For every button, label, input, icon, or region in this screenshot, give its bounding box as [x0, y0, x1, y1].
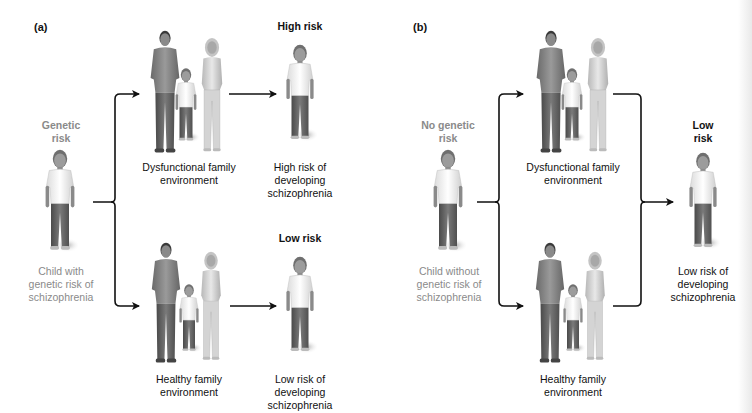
caption-line: developing	[262, 174, 338, 187]
genetic-risk-heading: Genetic risk	[30, 119, 92, 145]
arrow-b-to-dysfunctional	[477, 94, 523, 202]
dysfunctional-family-figure-b	[534, 30, 614, 156]
arrow-a-to-healthy	[111, 202, 139, 306]
caption-line: Low risk of	[663, 265, 743, 278]
mother-figure	[580, 250, 610, 366]
caption-line: Child with	[20, 265, 102, 278]
dysfunctional-environment-label-b: Dysfunctional family environment	[518, 161, 628, 187]
label-line: Dysfunctional family	[518, 161, 628, 174]
mother-figure	[582, 38, 614, 156]
mother-figure	[196, 250, 226, 366]
flow-arrows	[0, 0, 752, 413]
caption-line: genetic risk of	[404, 278, 494, 291]
child-without-genetic-risk-caption: Child without genetic risk of schizophre…	[404, 265, 494, 304]
label-line: environment	[134, 386, 244, 399]
healthy-family-figure-a	[150, 242, 230, 368]
low-risk-caption-a: Low risk of developing schizophrenia	[262, 373, 338, 412]
low-risk-caption-b: Low risk of developing schizophrenia	[663, 265, 743, 304]
child-figure-low-risk-a	[283, 247, 317, 365]
child-figure-high-risk	[283, 35, 317, 153]
heading-line: Low	[678, 119, 728, 132]
caption-line: developing	[663, 278, 743, 291]
caption-line: schizophrenia	[262, 399, 338, 412]
dysfunctional-environment-label-a: Dysfunctional family environment	[134, 161, 244, 187]
label-line: Healthy family	[134, 373, 244, 386]
label-line: Dysfunctional family	[134, 161, 244, 174]
child-figure-no-genetic-risk	[430, 143, 466, 261]
caption-line: schizophrenia	[262, 187, 338, 200]
caption-line: schizophrenia	[404, 291, 494, 304]
heading-line: Genetic	[30, 119, 92, 132]
healthy-family-figure-b	[534, 242, 614, 368]
healthy-environment-label-a: Healthy family environment	[134, 373, 244, 399]
caption-line: Low risk of	[262, 373, 338, 386]
dysfunctional-family-figure-a	[148, 30, 228, 156]
child-figure-genetic-risk	[42, 143, 78, 261]
no-genetic-risk-heading: No genetic risk	[408, 119, 488, 145]
healthy-environment-label-b: Healthy family environment	[518, 373, 628, 399]
caption-line: schizophrenia	[20, 291, 102, 304]
label-line: Healthy family	[518, 373, 628, 386]
mother-figure	[196, 38, 228, 156]
low-risk-heading-a: Low risk	[268, 232, 332, 245]
child-figure-low-risk-b	[686, 143, 720, 261]
caption-line: High risk of	[262, 161, 338, 174]
panel-label-a: (a)	[34, 21, 47, 33]
label-line: environment	[134, 174, 244, 187]
child-with-genetic-risk-caption: Child with genetic risk of schizophrenia	[20, 265, 102, 304]
label-line: environment	[518, 386, 628, 399]
panel-label-b: (b)	[413, 21, 427, 33]
caption-line: developing	[262, 386, 338, 399]
label-line: environment	[518, 174, 628, 187]
arrow-b-to-healthy	[495, 202, 523, 306]
high-risk-caption: High risk of developing schizophrenia	[262, 161, 338, 200]
high-risk-heading: High risk	[268, 20, 332, 33]
heading-line: No genetic	[408, 119, 488, 132]
caption-line: schizophrenia	[663, 291, 743, 304]
arrow-a-to-dysfunctional	[93, 94, 139, 202]
caption-line: genetic risk of	[20, 278, 102, 291]
caption-line: Child without	[404, 265, 494, 278]
arrow-b-healthy-merge	[613, 202, 645, 306]
low-risk-heading-b: Low risk	[678, 119, 728, 145]
